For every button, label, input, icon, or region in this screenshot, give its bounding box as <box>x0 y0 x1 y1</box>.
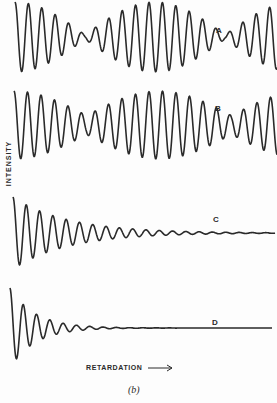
plot-area <box>0 0 277 403</box>
trace-a <box>15 2 277 72</box>
figure-caption: (b) <box>128 384 140 395</box>
x-axis-arrow-icon <box>148 365 172 371</box>
trace-c <box>13 197 275 265</box>
trace-label-b: B <box>215 104 221 113</box>
interferogram-figure: A B C D INTENSITY RETARDATION (b) <box>0 0 277 403</box>
trace-d <box>10 288 272 359</box>
trace-label-d: D <box>212 318 218 327</box>
y-axis-label: INTENSITY <box>5 134 12 194</box>
trace-b <box>14 91 277 159</box>
x-axis-label: RETARDATION <box>86 364 143 371</box>
trace-label-a: A <box>216 26 222 35</box>
trace-label-c: C <box>213 215 219 224</box>
